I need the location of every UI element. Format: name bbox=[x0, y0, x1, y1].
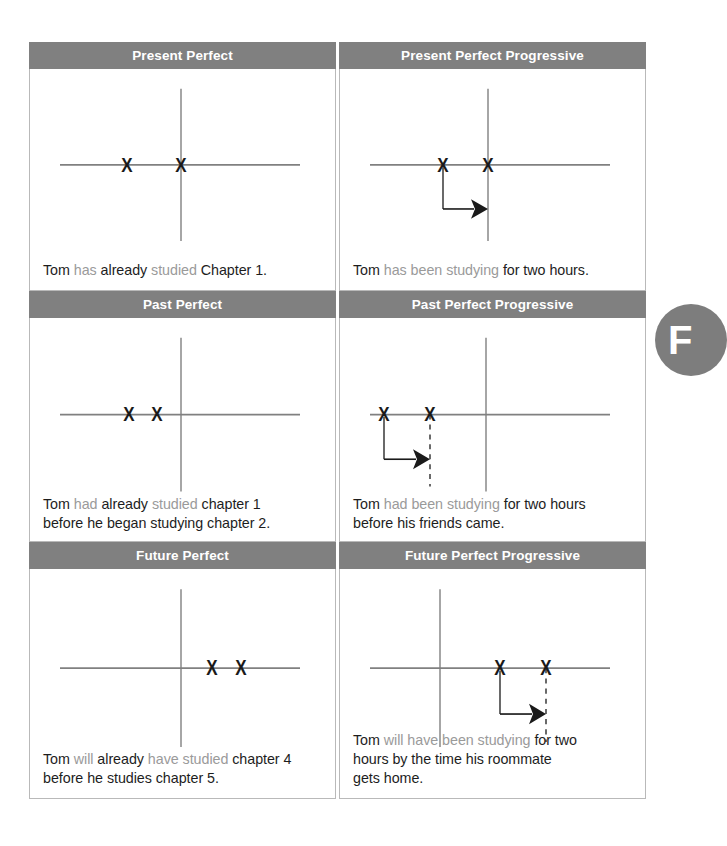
cell-title-future-perfect-progressive: Future Perfect Progressive bbox=[339, 542, 646, 569]
highlighted-verb: will bbox=[74, 751, 94, 767]
sentence-text: gets home. bbox=[353, 770, 423, 786]
example-sentence-future-perfect-progressive: Tom will have been studying for twohours… bbox=[353, 731, 637, 788]
tense-cell-past-perfect-progressive: Past Perfect Progressive XX Tom had been… bbox=[339, 291, 646, 542]
timeline-svg: XX bbox=[30, 69, 335, 290]
sentence-text: Chapter 1. bbox=[197, 262, 267, 278]
timeline-svg: XX bbox=[340, 69, 645, 290]
timeline-diagram-present-perfect: XX bbox=[30, 69, 335, 290]
highlighted-verb: had been studying bbox=[384, 496, 500, 512]
sentence-text: chapter 1 bbox=[198, 496, 261, 512]
event-mark-x: X bbox=[482, 153, 494, 176]
event-mark-x: X bbox=[123, 403, 135, 426]
example-sentence-future-perfect: Tom will already have studied chapter 4b… bbox=[43, 750, 327, 788]
cell-body-future-perfect: XX Tom will already have studied chapter… bbox=[30, 569, 335, 798]
sentence-text: already bbox=[98, 496, 152, 512]
sentence-text: for two hours. bbox=[499, 262, 589, 278]
event-mark-x: X bbox=[494, 655, 505, 679]
sentence-text: Tom bbox=[353, 732, 384, 748]
sentence-text: for two bbox=[530, 732, 576, 748]
tense-cell-future-perfect-progressive: Future Perfect Progressive XX Tom will h… bbox=[339, 542, 646, 799]
event-mark-x: X bbox=[151, 403, 163, 426]
cell-title-present-perfect: Present Perfect bbox=[29, 42, 336, 69]
cell-title-present-perfect-progressive: Present Perfect Progressive bbox=[339, 42, 646, 69]
highlighted-verb: had bbox=[74, 496, 98, 512]
cell-body-present-perfect-progressive: XX Tom has been studying for two hours. bbox=[340, 69, 645, 290]
highlighted-verb: has been studying bbox=[384, 262, 499, 278]
tense-cell-past-perfect: Past Perfect XX Tom had already studied … bbox=[29, 291, 336, 542]
event-mark-x: X bbox=[206, 655, 217, 679]
timeline-diagram-present-perfect-progressive: XX bbox=[340, 69, 645, 290]
cell-body-past-perfect-progressive: XX Tom had been studying for two hoursbe… bbox=[340, 318, 645, 541]
tense-grid: Present Perfect XX Tom has already studi… bbox=[29, 42, 646, 799]
cell-title-past-perfect: Past Perfect bbox=[29, 291, 336, 318]
example-sentence-past-perfect: Tom had already studied chapter 1before … bbox=[43, 495, 327, 533]
sentence-text: Tom bbox=[43, 496, 74, 512]
sentence-text: hours by the time his roommate bbox=[353, 751, 552, 767]
sentence-text: for two hours bbox=[500, 496, 586, 512]
example-sentence-present-perfect-progressive: Tom has been studying for two hours. bbox=[353, 261, 637, 280]
tense-cell-future-perfect: Future Perfect XX Tom will already have … bbox=[29, 542, 336, 799]
example-sentence-past-perfect-progressive: Tom had been studying for two hoursbefor… bbox=[353, 495, 637, 533]
sentence-text: before he began studying chapter 2. bbox=[43, 515, 270, 531]
sentence-text: Tom bbox=[43, 751, 74, 767]
sentence-text: before he studies chapter 5. bbox=[43, 770, 219, 786]
sentence-text: Tom bbox=[43, 262, 74, 278]
highlighted-verb: will have been studying bbox=[384, 732, 531, 748]
event-mark-x: X bbox=[540, 655, 551, 679]
section-badge-f: F bbox=[655, 304, 727, 376]
event-mark-x: X bbox=[424, 403, 436, 426]
tense-cell-present-perfect: Present Perfect XX Tom has already studi… bbox=[29, 42, 336, 291]
event-mark-x: X bbox=[121, 153, 133, 176]
sentence-text: already bbox=[97, 262, 151, 278]
cell-title-future-perfect: Future Perfect bbox=[29, 542, 336, 569]
event-mark-x: X bbox=[235, 655, 246, 679]
highlighted-verb: studied bbox=[152, 496, 198, 512]
cell-title-past-perfect-progressive: Past Perfect Progressive bbox=[339, 291, 646, 318]
cell-body-future-perfect-progressive: XX Tom will have been studying for twoho… bbox=[340, 569, 645, 798]
example-sentence-present-perfect: Tom has already studied Chapter 1. bbox=[43, 261, 327, 280]
tense-cell-present-perfect-progressive: Present Perfect Progressive XX Tom has b… bbox=[339, 42, 646, 291]
highlighted-verb: studied bbox=[151, 262, 197, 278]
cell-body-past-perfect: XX Tom had already studied chapter 1befo… bbox=[30, 318, 335, 541]
highlighted-verb: has bbox=[74, 262, 97, 278]
sentence-text: chapter 4 bbox=[228, 751, 291, 767]
event-mark-x: X bbox=[175, 153, 187, 176]
sentence-text: before his friends came. bbox=[353, 515, 504, 531]
cell-body-present-perfect: XX Tom has already studied Chapter 1. bbox=[30, 69, 335, 290]
event-mark-x: X bbox=[378, 403, 390, 426]
sentence-text: already bbox=[93, 751, 147, 767]
sentence-text: Tom bbox=[353, 262, 384, 278]
highlighted-verb: have studied bbox=[148, 751, 228, 767]
event-mark-x: X bbox=[437, 153, 449, 176]
sentence-text: Tom bbox=[353, 496, 384, 512]
